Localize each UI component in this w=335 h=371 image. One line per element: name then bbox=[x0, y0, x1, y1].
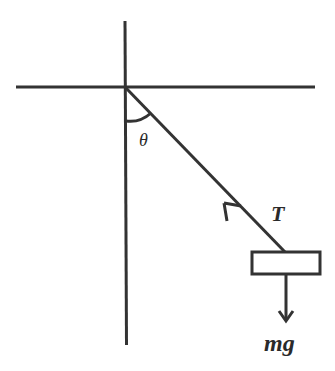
vertical-reference-line bbox=[125, 21, 127, 345]
tension-label: T bbox=[271, 201, 284, 227]
diagram-graphic bbox=[0, 0, 335, 371]
tension-arrowhead bbox=[224, 203, 241, 221]
pendulum-string bbox=[125, 87, 285, 252]
weight-label: mg bbox=[264, 330, 295, 357]
pendulum-diagram: θ T mg bbox=[0, 0, 335, 371]
angle-arc bbox=[126, 113, 151, 121]
angle-label-theta: θ bbox=[139, 130, 148, 151]
mass-box bbox=[252, 252, 320, 274]
